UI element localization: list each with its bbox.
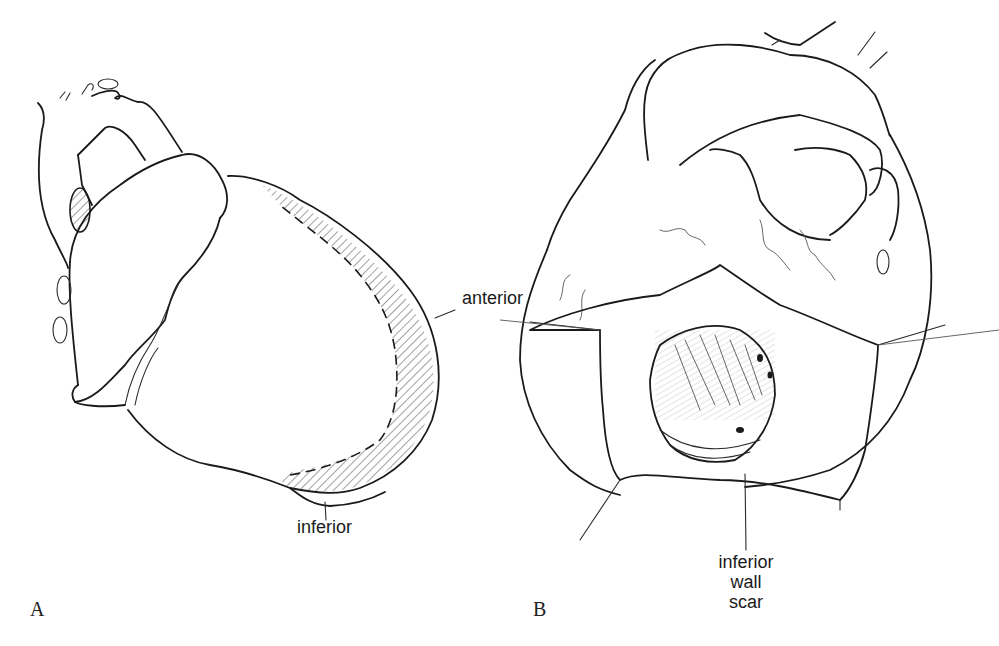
anterior-leader-line <box>435 310 455 318</box>
panel-letter-a: A <box>30 598 44 621</box>
heart-b-illustration <box>500 0 999 646</box>
figure-b-opened-ventricle: inferior wall scar B <box>500 0 999 646</box>
inferior-label: inferior <box>297 517 352 537</box>
panel-letter-b: B <box>533 598 546 621</box>
figure-a-heart-exterior: anterior inferior A <box>0 0 500 646</box>
heart-a-illustration <box>0 0 500 646</box>
inferior-wall-scar-label: inferior wall scar <box>713 552 779 612</box>
scar-label-line1: inferior <box>713 552 779 572</box>
scar-leader-line <box>745 474 746 550</box>
scar-label-line2: wall <box>713 572 779 592</box>
scar-label-line3: scar <box>713 592 779 612</box>
